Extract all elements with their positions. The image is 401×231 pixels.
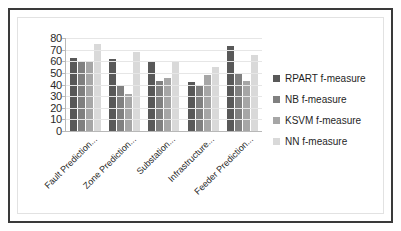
figure-outer-border: 01020304050607080 Fault Prediction...Zon… <box>8 8 393 223</box>
legend-item[interactable]: NN f-measure <box>273 131 383 152</box>
y-tick-label: 10 <box>50 114 62 125</box>
bar <box>235 74 242 131</box>
gridline <box>66 61 262 62</box>
y-axis-tick-labels: 01020304050607080 <box>36 37 62 132</box>
y-tick-label: 40 <box>50 79 62 90</box>
chart-object-border: 01020304050607080 Fault Prediction...Zon… <box>17 17 384 214</box>
legend-swatch-icon <box>273 117 280 124</box>
gridline <box>66 38 262 39</box>
chart-plot-wrapper: 01020304050607080 Fault Prediction...Zon… <box>18 18 383 213</box>
y-tick-label: 20 <box>50 102 62 113</box>
legend-item[interactable]: RPART f-measure <box>273 68 383 89</box>
y-tickmark <box>62 61 65 62</box>
bar <box>94 44 101 131</box>
legend-label: NB f-measure <box>285 94 347 105</box>
x-axis-tick-labels: Fault Prediction...Zone Prediction...Sub… <box>66 132 262 202</box>
legend-item[interactable]: KSVM f-measure <box>273 110 383 131</box>
gridline <box>66 50 262 51</box>
bar <box>156 81 163 131</box>
y-tickmark <box>62 108 65 109</box>
y-tickmark <box>62 119 65 120</box>
legend-label: KSVM f-measure <box>285 115 361 126</box>
legend-swatch-icon <box>273 75 280 82</box>
chart-figure: 01020304050607080 Fault Prediction...Zon… <box>0 0 401 231</box>
gridline <box>66 108 262 109</box>
y-tickmark <box>62 96 65 97</box>
y-tickmark <box>62 85 65 86</box>
bar <box>243 81 250 131</box>
gridline <box>66 85 262 86</box>
legend-swatch-icon <box>273 138 280 145</box>
bar <box>212 67 219 131</box>
bar <box>227 46 234 131</box>
y-tick-label: 50 <box>50 67 62 78</box>
gridline <box>66 73 262 74</box>
bar <box>125 94 132 131</box>
chart-legend: RPART f-measureNB f-measureKSVM f-measur… <box>273 68 383 152</box>
y-tickmark <box>62 50 65 51</box>
y-tickmark <box>62 38 65 39</box>
bar <box>188 82 195 131</box>
gridline <box>66 119 262 120</box>
legend-label: NN f-measure <box>285 136 347 147</box>
y-tick-label: 70 <box>50 44 62 55</box>
x-tick-label: Substation... <box>135 134 177 176</box>
legend-item[interactable]: NB f-measure <box>273 89 383 110</box>
legend-label: RPART f-measure <box>285 73 366 84</box>
bar <box>164 78 171 131</box>
legend-swatch-icon <box>273 96 280 103</box>
y-tick-label: 30 <box>50 91 62 102</box>
y-tick-label: 60 <box>50 56 62 67</box>
y-tick-label: 80 <box>50 33 62 44</box>
y-tickmark <box>62 131 65 132</box>
y-tickmark <box>62 73 65 74</box>
gridline <box>66 96 262 97</box>
